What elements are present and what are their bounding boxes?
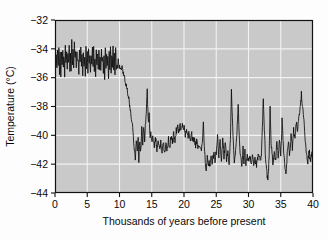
x-tick-label: 20: [178, 198, 190, 210]
x-axis: 0510152025303540: [52, 193, 319, 210]
y-tick-label: −32: [30, 14, 48, 26]
y-tick-label: −42: [30, 158, 48, 170]
y-tick-label: −34: [30, 43, 48, 55]
y-tick-label: −40: [30, 129, 48, 141]
x-tick-label: 15: [146, 198, 158, 210]
x-tick-label: 35: [275, 198, 287, 210]
x-tick-label: 5: [84, 198, 90, 210]
x-tick-label: 25: [210, 198, 222, 210]
y-axis-title: Temperature (°C): [4, 66, 16, 147]
y-tick-label: −44: [30, 187, 48, 199]
y-axis: −44−42−40−38−36−34−32: [30, 14, 55, 199]
x-axis-title: Thousands of years before present: [103, 215, 266, 227]
y-tick-label: −36: [30, 71, 48, 83]
x-tick-label: 40: [307, 198, 319, 210]
y-tick-label: −38: [30, 100, 48, 112]
temperature-line-chart: 0510152025303540 −44−42−40−38−36−34−32 T…: [0, 0, 328, 239]
plot-area: [55, 20, 313, 193]
chart-figure: 0510152025303540 −44−42−40−38−36−34−32 T…: [0, 0, 328, 239]
x-tick-label: 30: [243, 198, 255, 210]
x-tick-label: 0: [52, 198, 58, 210]
x-tick-label: 10: [114, 198, 126, 210]
